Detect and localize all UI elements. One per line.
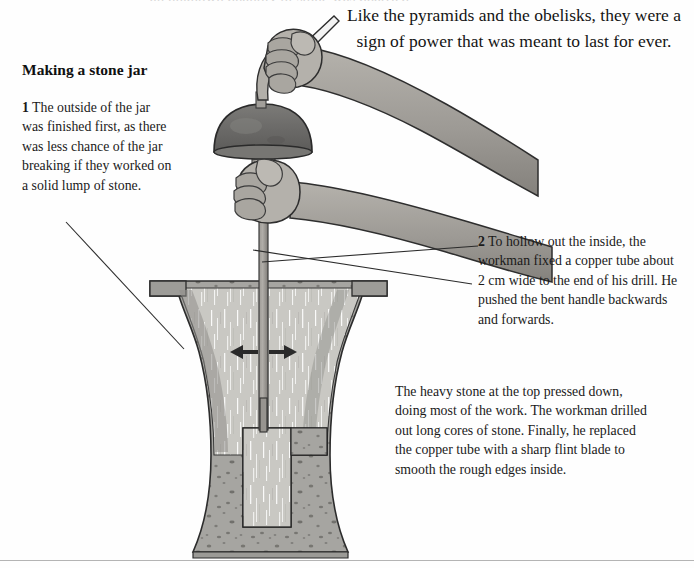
step-1-number: 1 bbox=[22, 100, 29, 115]
step-2-number: 2 bbox=[478, 234, 485, 249]
step-2-paragraph: 2 To hollow out the inside, the workman … bbox=[478, 232, 678, 329]
jar-foot bbox=[193, 552, 348, 558]
page-rule bbox=[0, 560, 694, 561]
closing-paragraph: The heavy stone at the top pressed down,… bbox=[395, 382, 650, 479]
stone-weight-dome bbox=[214, 104, 312, 159]
illustrated-page: an unknown quantity of stone was quarrie… bbox=[0, 0, 694, 568]
step-1-body: The outside of the jar was finished firs… bbox=[22, 100, 171, 193]
intro-paragraph: Like the pyramids and the obelisks, they… bbox=[340, 2, 688, 54]
copper-tube-bit bbox=[260, 398, 267, 432]
leader-line-step2-upper bbox=[262, 246, 478, 262]
upper-forearm bbox=[303, 47, 538, 196]
step-2-body: To hollow out the inside, the workman fi… bbox=[478, 234, 677, 327]
jar-rim-right bbox=[352, 281, 387, 296]
section-heading: Making a stone jar bbox=[22, 60, 222, 80]
core-slot bbox=[243, 428, 291, 527]
step-1-paragraph: 1 The outside of the jar was finished fi… bbox=[22, 98, 172, 195]
core-plug-shadow bbox=[291, 428, 327, 455]
upper-arm-and-hand bbox=[264, 29, 538, 196]
